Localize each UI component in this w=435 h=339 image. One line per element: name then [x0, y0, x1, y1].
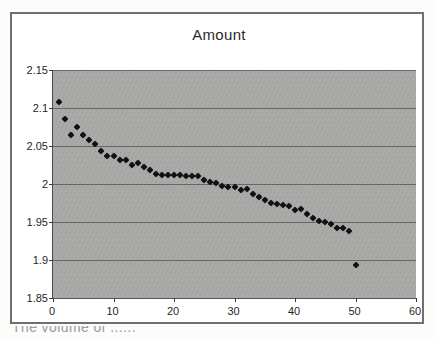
gridline-horizontal [53, 146, 416, 147]
y-tick-mark [49, 184, 53, 185]
data-point [298, 206, 305, 213]
y-axis-labels: 1.851.91.9522.052.12.15 [12, 70, 48, 298]
x-tick-mark [416, 298, 417, 302]
data-point [352, 261, 359, 268]
y-tick-mark [49, 222, 53, 223]
data-point [68, 131, 75, 138]
y-tick-mark [49, 260, 53, 261]
y-tick-label: 2.05 [12, 140, 48, 152]
data-point [56, 98, 63, 105]
data-point [98, 147, 105, 154]
x-tick-label: 30 [214, 305, 254, 317]
data-point [80, 131, 87, 138]
y-tick-mark [49, 108, 53, 109]
y-tick-label: 1.85 [12, 292, 48, 304]
x-tick-label: 40 [274, 305, 314, 317]
data-point [110, 152, 117, 159]
data-point [74, 123, 81, 130]
page-caption-text: The volume of ...... [12, 326, 432, 335]
y-tick-mark [49, 70, 53, 71]
gridline-horizontal [53, 70, 416, 71]
y-tick-label: 2 [12, 178, 48, 190]
y-tick-label: 2.1 [12, 102, 48, 114]
plot-area [52, 70, 416, 299]
gridline-horizontal [53, 108, 416, 109]
data-point [62, 116, 69, 123]
data-point [122, 157, 129, 164]
y-tick-label: 1.95 [12, 216, 48, 228]
x-tick-label: 50 [335, 305, 375, 317]
chart-frame: Amount 1.851.91.9522.052.12.15 010203040… [10, 12, 424, 324]
x-tick-label: 10 [93, 305, 133, 317]
y-tick-label: 1.9 [12, 254, 48, 266]
gridline-horizontal [53, 222, 416, 223]
x-tick-label: 0 [32, 305, 72, 317]
y-tick-label: 2.15 [12, 64, 48, 76]
data-point [243, 185, 250, 192]
gridline-horizontal [53, 260, 416, 261]
data-point [346, 228, 353, 235]
x-tick-label: 60 [395, 305, 435, 317]
y-tick-mark [49, 146, 53, 147]
x-axis-labels: 0102030405060 [52, 299, 416, 323]
scanned-page: Amount 1.851.91.9522.052.12.15 010203040… [0, 0, 435, 339]
x-tick-label: 20 [153, 305, 193, 317]
chart-title: Amount [12, 26, 426, 43]
page-caption-partial: The volume of ...... [12, 326, 432, 339]
